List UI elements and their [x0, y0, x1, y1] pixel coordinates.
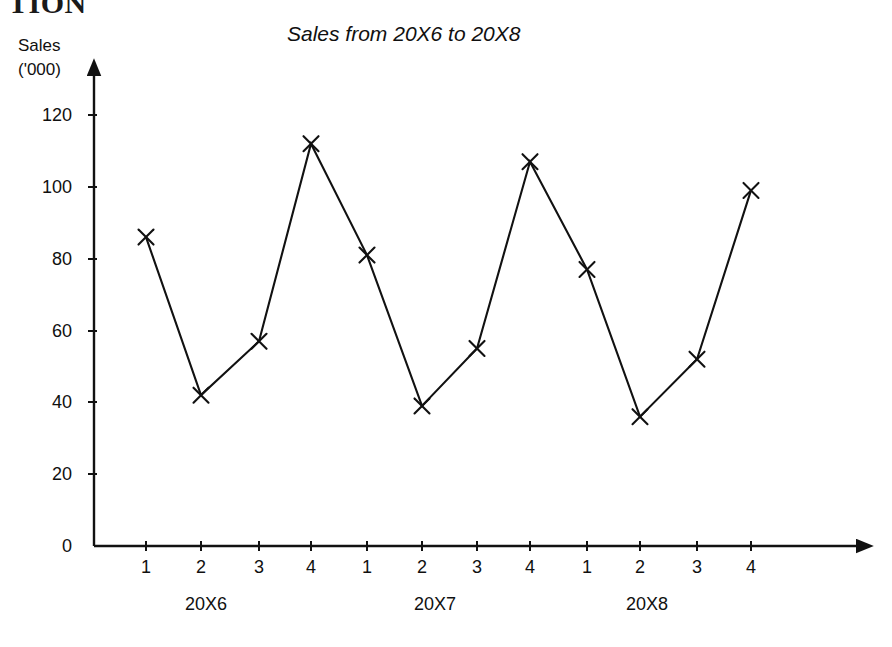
y-axis-ticks	[88, 115, 97, 474]
data-point-marker	[252, 334, 267, 349]
sales-series-markers	[139, 136, 759, 424]
data-point-marker	[690, 352, 705, 367]
data-point-marker	[523, 154, 538, 169]
data-point-marker	[744, 183, 759, 198]
data-point-marker	[194, 388, 209, 403]
data-point-marker	[415, 398, 430, 413]
data-point-marker	[580, 262, 595, 277]
data-point-marker	[633, 409, 648, 424]
chart-plot-area	[0, 0, 892, 647]
data-point-marker	[139, 230, 154, 245]
data-point-marker	[470, 341, 485, 356]
chart-page: TION Sales from 20X6 to 20X8 Sales ('000…	[0, 0, 892, 647]
data-point-marker	[360, 248, 375, 263]
sales-series-line	[146, 144, 751, 417]
data-point-marker	[304, 136, 319, 151]
